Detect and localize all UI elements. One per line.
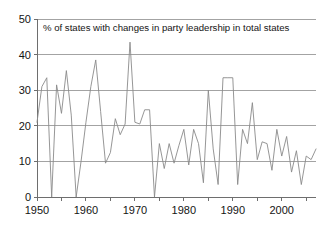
line-chart: 01020304050 195019601970198019902000 % o…	[0, 0, 332, 231]
x-tick-label-1980: 1980	[172, 204, 196, 216]
y-tick-label-30: 30	[19, 84, 31, 96]
y-tick-label-20: 20	[19, 120, 31, 132]
chart-figure: 01020304050 195019601970198019902000 % o…	[0, 0, 332, 231]
y-tick-label-0: 0	[25, 191, 31, 203]
y-tick-label-40: 40	[19, 49, 31, 61]
chart-title: % of states with changes in party leader…	[43, 22, 290, 33]
y-axis-tick-labels: 01020304050	[19, 13, 31, 203]
x-tick-label-1960: 1960	[74, 204, 98, 216]
x-tick-label-1950: 1950	[25, 204, 49, 216]
gridlines-group	[37, 19, 316, 197]
x-axis-tick-labels: 195019601970198019902000	[25, 204, 294, 216]
y-tick-label-50: 50	[19, 13, 31, 25]
y-tick-label-10: 10	[19, 155, 31, 167]
x-tick-label-1990: 1990	[221, 204, 245, 216]
data-series-line	[37, 42, 316, 197]
x-tick-label-2000: 2000	[269, 204, 293, 216]
x-tick-label-1970: 1970	[123, 204, 147, 216]
